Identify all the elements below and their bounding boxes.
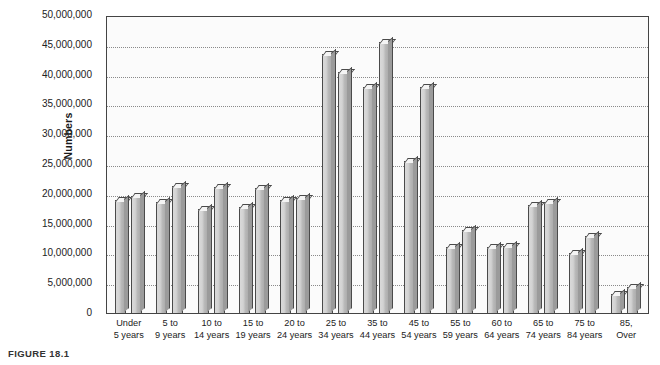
bar-slot: [198, 17, 211, 313]
bar-group: [115, 17, 144, 313]
bar-slot: [503, 17, 516, 313]
bar[interactable]: [503, 246, 514, 313]
x-axis-tick-labels: Under 5 years5 to 9 years10 to 14 years1…: [106, 316, 649, 350]
bar-group: [239, 17, 268, 313]
x-axis-tick-label: 75 to 84 years: [565, 316, 605, 350]
bar-slot: [569, 17, 582, 313]
bar-group: [198, 17, 227, 313]
bar[interactable]: [363, 87, 374, 313]
bar[interactable]: [585, 236, 596, 313]
y-axis-tick-label: 10,000,000: [42, 247, 92, 258]
y-axis-tick-label: 5,000,000: [48, 277, 93, 288]
x-axis-tick-label: 45 to 54 years: [399, 316, 439, 350]
bar-slot: [585, 17, 598, 313]
y-axis-tick-label: 15,000,000: [42, 217, 92, 228]
bar-slot: [462, 17, 475, 313]
bar[interactable]: [338, 72, 349, 313]
x-axis-tick-label: 65 to 74 years: [523, 316, 563, 350]
bar[interactable]: [569, 253, 580, 313]
y-axis-tick-label: 20,000,000: [42, 187, 92, 198]
bar-slot: [172, 17, 185, 313]
bar[interactable]: [322, 54, 333, 313]
bar[interactable]: [115, 200, 126, 313]
bar-slot: [544, 17, 557, 313]
bar-slot: [404, 17, 417, 313]
bar-slot: [420, 17, 433, 313]
x-axis-tick-label: 15 to 19 years: [233, 316, 273, 350]
bar-slot: [239, 17, 252, 313]
bar-group: [569, 17, 598, 313]
bar-slot: [156, 17, 169, 313]
bar[interactable]: [487, 247, 498, 313]
bar-slot: [446, 17, 459, 313]
x-axis-tick-label: Under 5 years: [109, 316, 149, 350]
bar-slot: [296, 17, 309, 313]
figure-container: Numbers 50,000,00045,000,00040,000,00035…: [0, 0, 660, 365]
bar-group: [363, 17, 392, 313]
bar[interactable]: [544, 202, 555, 313]
x-axis-tick-label: 10 to 14 years: [192, 316, 232, 350]
bars-layer: [107, 17, 648, 313]
bar-slot: [338, 17, 351, 313]
x-axis-tick-label: 35 to 44 years: [357, 316, 397, 350]
bar-group: [156, 17, 185, 313]
bar[interactable]: [379, 42, 390, 313]
x-axis-tick-label: 60 to 64 years: [482, 316, 522, 350]
bar-slot: [627, 17, 640, 313]
bar-slot: [255, 17, 268, 313]
y-axis-tick-label: 25,000,000: [42, 158, 92, 169]
plot-area: [106, 16, 649, 314]
bar-group: [611, 17, 640, 313]
x-axis-tick-label: 55 to 59 years: [440, 316, 480, 350]
y-axis-tick-label: 40,000,000: [42, 68, 92, 79]
figure-caption: FIGURE 18.1: [8, 348, 69, 359]
x-axis-tick-label: 5 to 9 years: [150, 316, 190, 350]
bar[interactable]: [239, 207, 250, 313]
bar-slot: [363, 17, 376, 313]
bar[interactable]: [528, 205, 539, 313]
bar[interactable]: [214, 187, 225, 313]
bar[interactable]: [420, 87, 431, 313]
bar[interactable]: [627, 287, 638, 313]
bar-slot: [280, 17, 293, 313]
bar[interactable]: [296, 198, 307, 313]
bar[interactable]: [156, 202, 167, 313]
x-axis-tick-label: 85, Over: [606, 316, 646, 350]
bar[interactable]: [131, 196, 142, 313]
x-axis-tick-label: 20 to 24 years: [275, 316, 315, 350]
bar-group: [487, 17, 516, 313]
bar[interactable]: [446, 247, 457, 313]
bar[interactable]: [172, 186, 183, 313]
y-axis-tick-label: 45,000,000: [42, 38, 92, 49]
bar-slot: [115, 17, 128, 313]
bar[interactable]: [280, 200, 291, 313]
y-axis-tick-label: 0: [86, 307, 92, 318]
bar-slot: [528, 17, 541, 313]
bar-slot: [611, 17, 624, 313]
bar-slot: [379, 17, 392, 313]
x-axis-tick-label: 25 to 34 years: [316, 316, 356, 350]
bar-group: [322, 17, 351, 313]
y-axis-tick-label: 30,000,000: [42, 128, 92, 139]
bar-slot: [487, 17, 500, 313]
bar[interactable]: [404, 161, 415, 313]
bar-slot: [131, 17, 144, 313]
y-axis-tick-label: 35,000,000: [42, 98, 92, 109]
bar-slot: [214, 17, 227, 313]
bar-group: [446, 17, 475, 313]
bar-group: [404, 17, 433, 313]
y-axis-tick-label: 50,000,000: [42, 9, 92, 20]
bar[interactable]: [198, 209, 209, 313]
bar-group: [528, 17, 557, 313]
bar-group: [280, 17, 309, 313]
bar-slot: [322, 17, 335, 313]
bar[interactable]: [255, 188, 266, 313]
bar[interactable]: [462, 230, 473, 313]
bar[interactable]: [611, 294, 622, 313]
y-axis-tick-labels: 50,000,00045,000,00040,000,00035,000,000…: [0, 14, 98, 316]
